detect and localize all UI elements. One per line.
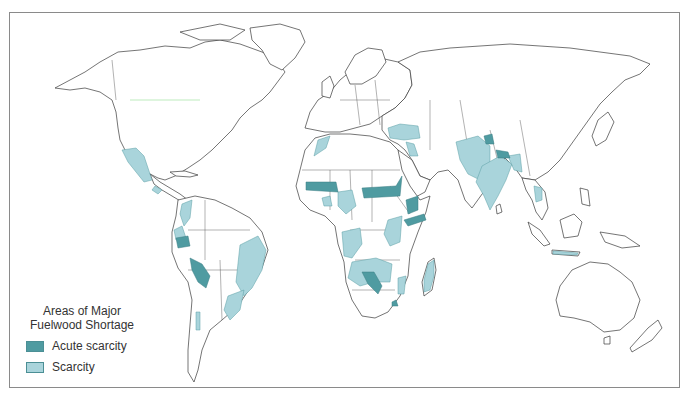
sri-lanka <box>496 204 502 214</box>
legend-title: Areas of Major Fuelwood Shortage <box>26 304 138 332</box>
acute-swatch-icon <box>26 341 44 352</box>
new-zealand <box>630 320 662 352</box>
borneo <box>560 214 582 238</box>
southeast-asia <box>522 178 548 220</box>
australia <box>556 262 640 332</box>
map-legend: Areas of Major Fuelwood Shortage Acute s… <box>26 304 176 374</box>
japan <box>592 112 614 146</box>
region-west-africa-2 <box>322 196 332 206</box>
new-guinea <box>600 232 640 248</box>
legend-item-acute: Acute scarcity <box>26 339 176 353</box>
legend-label-scarcity: Scarcity <box>52 360 95 374</box>
legend-label-acute: Acute scarcity <box>52 339 127 353</box>
region-sahel-west <box>306 182 338 192</box>
arctic-islands <box>180 24 245 40</box>
south-america <box>172 196 268 382</box>
region-eastern-brazil <box>236 236 266 296</box>
tasmania <box>604 336 610 344</box>
region-andes-ecuador <box>176 236 190 248</box>
scarcity-swatch-icon <box>26 362 44 373</box>
legend-title-line2: Fuelwood Shortage <box>26 318 138 332</box>
region-turkey <box>388 124 420 140</box>
north-america <box>55 40 285 180</box>
region-north-pakistan <box>484 134 494 144</box>
philippines <box>580 188 590 206</box>
legend-item-scarcity: Scarcity <box>26 360 176 374</box>
sumatra <box>528 222 550 246</box>
region-mozambique <box>398 276 406 294</box>
region-chile <box>196 312 200 330</box>
legend-title-line1: Areas of Major <box>26 304 138 318</box>
